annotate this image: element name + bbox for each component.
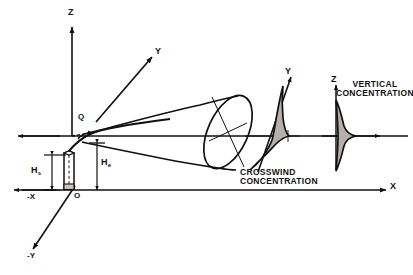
axis-label-y-negative: -Y bbox=[27, 252, 35, 261]
crosswind-profile bbox=[245, 77, 300, 172]
crosswind-concentration-label: CROSSWINDCONCENTRATION bbox=[240, 168, 318, 186]
axis-label-x-negative: -X bbox=[27, 193, 35, 202]
effective-height-letter: H bbox=[101, 157, 108, 167]
origin-label: O bbox=[74, 192, 80, 201]
stack-height-dimension bbox=[44, 155, 66, 190]
stack bbox=[64, 151, 74, 190]
plume-diagram-canvas bbox=[0, 0, 413, 275]
axis-label-x: X bbox=[390, 182, 396, 192]
plume-diagram: Z Y -Y -X X O Q Hs He Y Z CROSSWINDCONCE… bbox=[0, 0, 413, 275]
effective-height-label: He bbox=[101, 158, 111, 168]
source-label-q: Q bbox=[78, 113, 84, 122]
axis-label-y: Y bbox=[155, 47, 161, 57]
vertical-concentration-label: VERTICALCONCENTRATION bbox=[336, 80, 413, 98]
y-axis-positive bbox=[96, 57, 152, 122]
plume-tail bbox=[218, 168, 236, 170]
crosswind-concentration-line2: CONCENTRATION bbox=[240, 176, 318, 186]
effective-height-subscript: e bbox=[108, 162, 112, 168]
axis-label-z: Z bbox=[68, 8, 74, 18]
crosswind-axis-label-y: Y bbox=[285, 67, 291, 77]
vertical-concentration-line2: CONCENTRATION bbox=[336, 88, 413, 98]
stack-height-label: Hs bbox=[31, 166, 41, 176]
stack-height-letter: H bbox=[31, 165, 38, 175]
y-axis-negative bbox=[33, 186, 75, 249]
stack-height-subscript: s bbox=[38, 170, 42, 176]
